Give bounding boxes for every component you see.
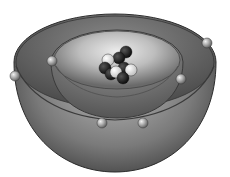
electron-sphere xyxy=(10,71,20,81)
electron-sphere xyxy=(176,74,186,84)
electron-sphere xyxy=(202,38,212,48)
electron-sphere xyxy=(47,56,57,66)
electron-sphere xyxy=(138,118,148,128)
proton-sphere xyxy=(117,72,129,84)
atom-model-diagram xyxy=(0,0,230,177)
electron-sphere xyxy=(97,118,107,128)
